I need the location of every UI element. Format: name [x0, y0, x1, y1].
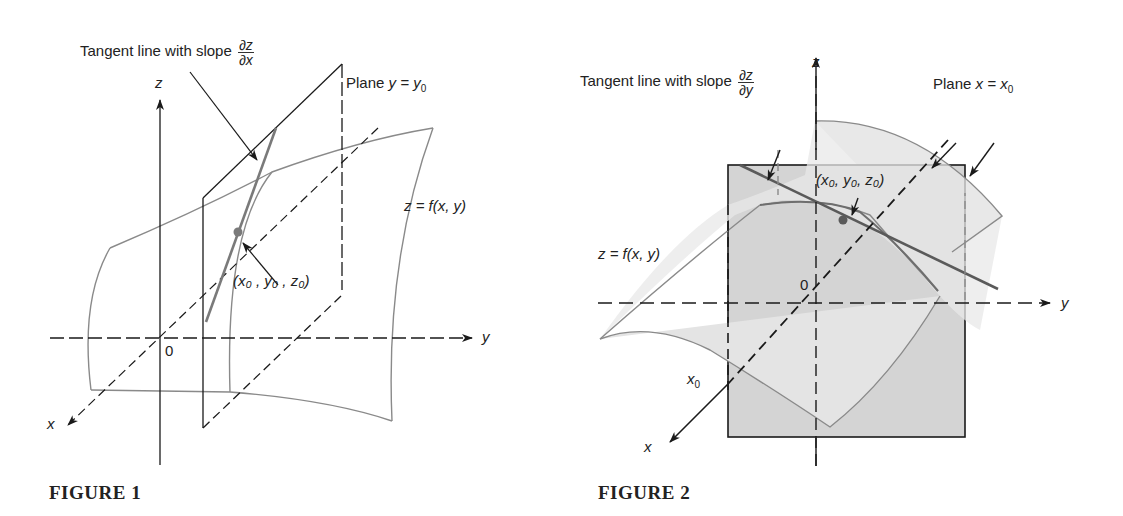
x-axis-label-fig2: x [644, 438, 652, 455]
partial-derivative-dz-dx: ∂z ∂x [238, 38, 254, 67]
point-label-fig2: (x₀, y₀, z₀) [816, 171, 884, 188]
origin-label-fig2: 0 [800, 276, 808, 293]
figure-1-caption: FIGURE 1 [49, 482, 141, 504]
tangent-label-fig1: Tangent line with slope ∂z ∂x [80, 38, 254, 67]
figure-2-caption: FIGURE 2 [598, 482, 690, 504]
y-axis-label-fig2: y [1061, 294, 1069, 311]
point-x0y0z0 [839, 216, 848, 225]
tangent-line [206, 128, 276, 322]
tangent-label-fig2: Tangent line with slope ∂z ∂y [580, 68, 754, 97]
point-x0y0z0 [234, 228, 243, 237]
plane-label-fig1: Plane y = y0 [346, 74, 426, 94]
x-axis-label-fig1: x [47, 415, 55, 432]
origin-label-fig1: 0 [165, 342, 173, 359]
z-axis-label-fig2: z [812, 53, 820, 70]
y-axis-label-fig1: y [482, 328, 490, 345]
z-axis-label-fig1: z [155, 74, 163, 91]
figure-1-drawing [0, 0, 560, 516]
figure-1: Tangent line with slope ∂z ∂x Plane y = … [0, 0, 560, 516]
surface-label-fig1: z = f(x, y) [404, 197, 466, 214]
figure-2: Tangent line with slope ∂z ∂y Plane x = … [560, 0, 1123, 516]
point-label-fig1: (x₀ , y₀ , z₀) [233, 272, 309, 289]
surface-label-fig2: z = f(x, y) [598, 245, 660, 262]
x0-label-fig2: x0 [687, 370, 700, 390]
partial-derivative-dz-dy: ∂z ∂y [738, 68, 754, 97]
plane-label-fig2: Plane x = x0 [933, 75, 1013, 95]
plane-y-y0 [203, 64, 342, 428]
